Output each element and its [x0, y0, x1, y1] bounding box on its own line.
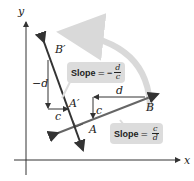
slope-box-perpendicular: Slope = − dc — [67, 62, 125, 83]
point-a-label: A — [89, 124, 97, 135]
neg-d-label: −d — [32, 78, 48, 89]
run-c-label: c — [55, 111, 61, 122]
diagram-graphics — [0, 0, 194, 181]
x-axis-label: x — [184, 155, 190, 166]
rise-c-label: c — [96, 105, 102, 116]
point-b-label: B — [146, 102, 154, 113]
slope-box-ab: Slope = cd — [110, 123, 163, 144]
point-a-prime-label: A′ — [69, 98, 79, 109]
perpendicular-slopes-diagram: y x B′ A′ A B d c −d c Slope = − dc Slop… — [0, 0, 194, 181]
run-d-label: d — [116, 85, 123, 96]
point-b-prime-label: B′ — [55, 44, 66, 55]
y-axis-label: y — [18, 6, 24, 17]
